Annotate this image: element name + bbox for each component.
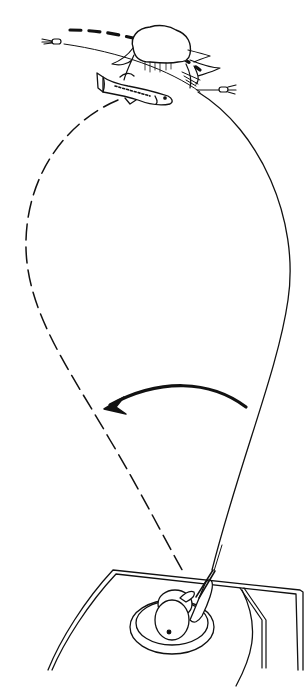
- stump-icon: [132, 26, 190, 64]
- fishing-line-solid: [198, 92, 290, 570]
- lure-left-icon: [42, 39, 61, 44]
- arrow-head-icon: [104, 397, 126, 414]
- lure-right-icon: [197, 85, 236, 94]
- angler-icon: [130, 580, 214, 654]
- diagram-canvas: casting technique around a stump: [0, 0, 308, 687]
- casting-illustration: [0, 0, 308, 687]
- stump-root-right: [186, 50, 220, 88]
- sweep-arrow: [110, 386, 246, 407]
- cast-path-dashed: [26, 100, 185, 575]
- bass-fish-icon: [97, 73, 172, 105]
